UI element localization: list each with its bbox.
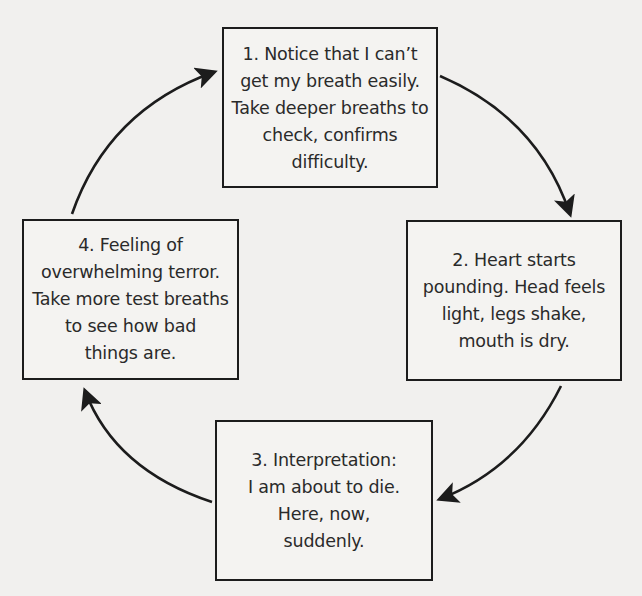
panic-cycle-diagram: 1. Notice that I can’t get my breath eas… [0, 0, 642, 596]
arrow-3-to-4 [85, 391, 212, 502]
arrow-1-to-2 [440, 76, 570, 214]
cycle-step-3-box: 3. Interpretation: I am about to die. He… [215, 420, 433, 581]
step-3-line: 3. Interpretation: [251, 447, 396, 474]
cycle-step-4-box: 4. Feeling of overwhelming terror. Take … [22, 219, 239, 380]
arrow-4-to-1 [72, 72, 214, 214]
step-3-line: I am about to die. [248, 474, 400, 501]
step-4-line: overwhelming terror. [41, 259, 220, 286]
step-2-line: pounding. Head feels [423, 274, 605, 301]
arrow-2-to-3 [440, 386, 561, 499]
cycle-step-1-box: 1. Notice that I can’t get my breath eas… [222, 27, 438, 188]
step-4-line: things are. [85, 340, 176, 367]
cycle-step-2-box: 2. Heart starts pounding. Head feels lig… [406, 220, 622, 381]
step-3-line: suddenly. [284, 528, 365, 555]
step-2-line: 2. Heart starts [452, 247, 575, 274]
step-4-line: 4. Feeling of [78, 232, 183, 259]
step-3-line: Here, now, [278, 501, 370, 528]
step-1-line: difficulty. [292, 149, 369, 176]
step-1-line: 1. Notice that I can’t [242, 41, 417, 68]
step-1-line: check, confirms [263, 122, 398, 149]
step-1-line: get my breath easily. [240, 68, 420, 95]
step-4-line: to see how bad [65, 313, 196, 340]
step-2-line: mouth is dry. [458, 328, 569, 355]
step-2-line: light, legs shake, [442, 301, 587, 328]
step-1-line: Take deeper breaths to [232, 95, 429, 122]
step-4-line: Take more test breaths [32, 286, 229, 313]
